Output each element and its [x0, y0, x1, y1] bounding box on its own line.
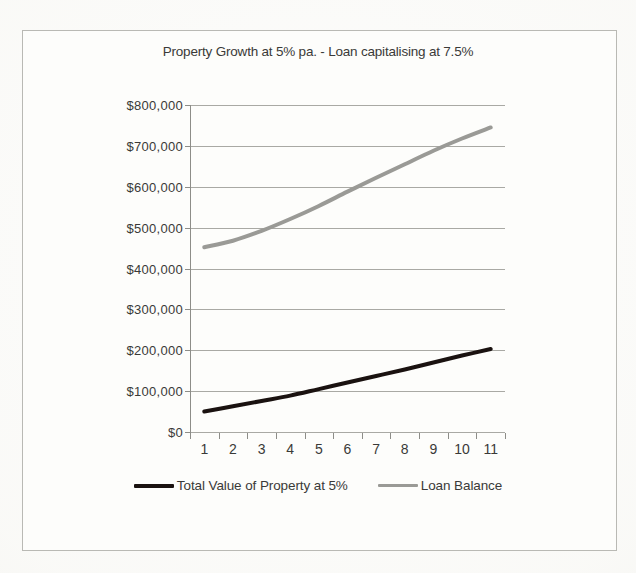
x-axis-tick	[362, 433, 363, 439]
x-axis-tick	[247, 433, 248, 439]
y-axis-label: $200,000	[63, 343, 183, 358]
legend-swatch-property	[134, 484, 174, 488]
y-axis-label: $400,000	[63, 261, 183, 276]
x-axis-tick	[219, 433, 220, 439]
x-axis-label: 10	[447, 441, 477, 457]
legend-item-loan: Loan Balance	[378, 478, 502, 493]
x-axis-tick	[276, 433, 277, 439]
x-axis-label: 5	[304, 441, 334, 457]
x-axis-label: 8	[390, 441, 420, 457]
gridline	[190, 350, 505, 351]
x-axis-tick	[190, 433, 191, 439]
x-axis-tick	[333, 433, 334, 439]
y-axis-label: $100,000	[63, 384, 183, 399]
gridline	[190, 187, 505, 188]
y-axis-label: $0	[63, 425, 183, 440]
x-axis-label: 11	[476, 441, 506, 457]
gridline	[190, 269, 505, 270]
x-axis-label: 7	[361, 441, 391, 457]
x-axis-tick	[448, 433, 449, 439]
gridline	[190, 146, 505, 147]
y-axis-tick	[185, 309, 190, 310]
x-axis-tick	[419, 433, 420, 439]
y-axis-tick	[185, 187, 190, 188]
gridline	[190, 309, 505, 310]
x-axis-label: 2	[218, 441, 248, 457]
legend-swatch-loan	[378, 484, 418, 487]
chart-page: Property Growth at 5% pa. - Loan capital…	[0, 0, 636, 573]
plot-area	[190, 105, 505, 432]
x-axis-label: 1	[189, 441, 219, 457]
gridline	[190, 105, 505, 106]
y-axis-tick	[185, 146, 190, 147]
gridline	[190, 391, 505, 392]
y-axis-label: $600,000	[63, 179, 183, 194]
x-axis-label: 4	[275, 441, 305, 457]
y-axis-tick	[185, 350, 190, 351]
legend-label-loan: Loan Balance	[421, 478, 502, 493]
gridline	[190, 432, 505, 433]
x-axis-label: 6	[333, 441, 363, 457]
y-axis-tick	[185, 391, 190, 392]
x-axis-label: 3	[247, 441, 277, 457]
y-axis-tick	[185, 105, 190, 106]
x-axis-tick	[305, 433, 306, 439]
x-axis-label: 9	[418, 441, 448, 457]
y-axis-label: $800,000	[63, 98, 183, 113]
chart-legend: Total Value of Property at 5% Loan Balan…	[0, 478, 636, 493]
y-axis-tick	[185, 269, 190, 270]
y-axis-line	[190, 105, 191, 433]
x-axis-tick	[476, 433, 477, 439]
legend-label-property: Total Value of Property at 5%	[177, 478, 348, 493]
y-axis-label: $300,000	[63, 302, 183, 317]
x-axis-tick	[390, 433, 391, 439]
y-axis-tick	[185, 228, 190, 229]
gridline	[190, 228, 505, 229]
y-axis-label: $500,000	[63, 220, 183, 235]
legend-item-property: Total Value of Property at 5%	[134, 478, 348, 493]
x-axis-tick	[505, 433, 506, 439]
y-axis-label: $700,000	[63, 138, 183, 153]
